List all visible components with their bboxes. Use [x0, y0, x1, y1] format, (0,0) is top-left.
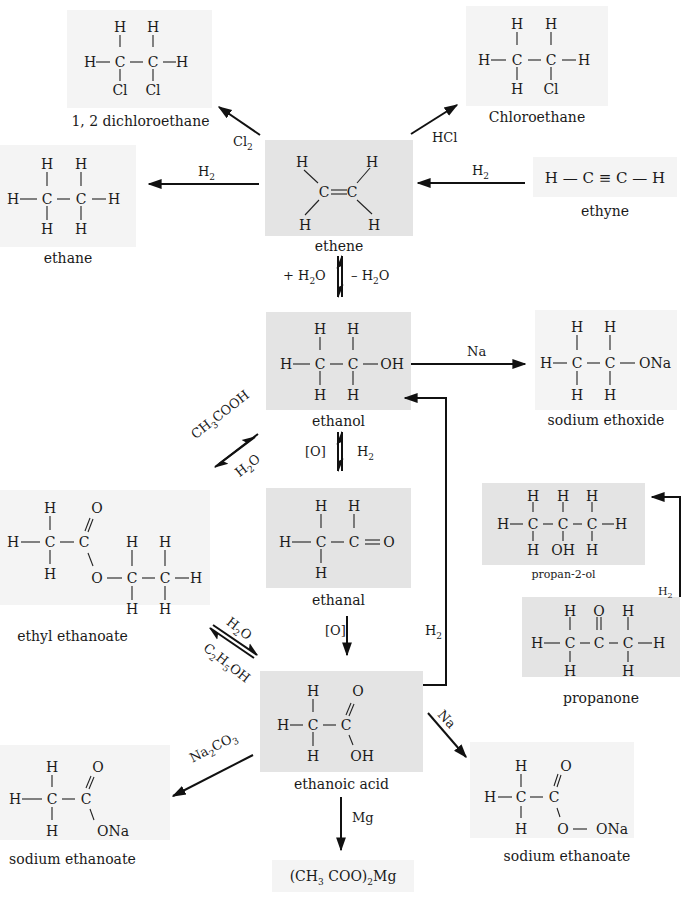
- reagent-ox-ethanal: [O]: [325, 623, 346, 638]
- atom-c: C: [160, 570, 171, 586]
- ethene-label: ethene: [265, 238, 413, 254]
- atom-h: H: [347, 387, 359, 403]
- ethanol-label: ethanol: [266, 413, 411, 429]
- atom-c: C: [47, 791, 58, 807]
- atom-h: H: [586, 488, 598, 504]
- reagent-hcl: HCl: [432, 130, 457, 145]
- atom-h: H: [571, 387, 583, 403]
- atom-h: H: [126, 601, 138, 617]
- reaction-diagram: HHHCCHClClHHHCCHHClHHHCCHHHHHCCHHHHHCCOH…: [0, 0, 684, 898]
- propan-2-ol-label: propan-2-ol: [482, 568, 645, 581]
- atom-h: H: [84, 54, 96, 70]
- atom-c: C: [623, 635, 634, 651]
- atom-h: H: [511, 81, 523, 97]
- reagent-h2-ethane: H2: [198, 164, 215, 182]
- ethane-label: ethane: [0, 250, 136, 266]
- atom-c: C: [308, 717, 319, 733]
- atom-h: H: [315, 565, 327, 581]
- ethanoic-acid-label: ethanoic acid: [260, 776, 423, 792]
- atom-h: H: [41, 156, 53, 172]
- atom-h: H: [114, 19, 126, 35]
- atom-h: H: [564, 663, 576, 679]
- atom-ona: ONa: [97, 823, 129, 839]
- atom-c: C: [549, 789, 560, 805]
- atom-h: H: [108, 191, 120, 207]
- ethyne-formula: H — C ≡ C — H: [533, 169, 677, 187]
- atom-o: O: [557, 821, 568, 837]
- sodium-ethoxide-label: sodium ethoxide: [525, 412, 684, 428]
- atom-cl: Cl: [145, 82, 161, 98]
- atom-c: C: [316, 534, 327, 550]
- atom-h: H: [277, 717, 289, 733]
- atom-h: H: [190, 570, 202, 586]
- reagent-ox-ethanol: [O]: [305, 444, 326, 459]
- atom-c: C: [512, 52, 523, 68]
- atom-cl: Cl: [543, 81, 559, 97]
- atom-h: H: [348, 498, 360, 514]
- atom-c: C: [347, 184, 358, 200]
- reagent-cl2: Cl2: [233, 134, 253, 152]
- atom-h: H: [515, 758, 527, 774]
- atom-h: H: [9, 791, 21, 807]
- arrow-cl2: [219, 107, 260, 135]
- arrow-h2-acid-to-ethanol: [405, 398, 446, 685]
- atom-h: H: [564, 603, 576, 619]
- atom-o: O: [593, 603, 604, 619]
- atom-cl: Cl: [112, 82, 128, 98]
- atom-h: H: [296, 154, 308, 170]
- atom-h: H: [299, 217, 311, 233]
- atom-ona: ONa: [596, 821, 628, 837]
- atom-h: H: [347, 321, 359, 337]
- atom-h: H: [497, 516, 509, 532]
- atom-h: H: [511, 16, 523, 32]
- reagent-h2-acid: H2: [425, 623, 442, 641]
- atom-c: C: [45, 534, 56, 550]
- reagent-minus-h2o: – H2O: [351, 268, 389, 286]
- atom-o: O: [560, 758, 571, 774]
- atom-oh: OH: [551, 542, 575, 558]
- atom-c: C: [115, 54, 126, 70]
- atom-c: C: [148, 54, 159, 70]
- atom-c: C: [42, 191, 53, 207]
- atom-c: C: [76, 191, 87, 207]
- atom-oh: OH: [350, 748, 374, 764]
- atom-h: H: [147, 19, 159, 35]
- atom-c: C: [315, 356, 326, 372]
- atom-h: H: [531, 635, 543, 651]
- atom-h: H: [527, 542, 539, 558]
- atom-c: C: [605, 355, 616, 371]
- atom-h: H: [7, 191, 19, 207]
- atom-c: C: [516, 789, 527, 805]
- atom-h: H: [280, 356, 292, 372]
- atom-h: H: [545, 16, 557, 32]
- arrow-h2-propanone: [652, 497, 680, 597]
- atom-c: C: [127, 570, 138, 586]
- reagent-plus-h2o: + H2O: [283, 268, 326, 286]
- ethanal-label: ethanal: [266, 592, 411, 608]
- sodium-ethanoate-right-label: sodium ethanoate: [485, 848, 649, 864]
- atom-oh: OH: [380, 356, 404, 372]
- atom-h: H: [527, 488, 539, 504]
- atom-h: H: [41, 221, 53, 237]
- atom-c: C: [546, 52, 557, 68]
- atom-h: H: [622, 603, 634, 619]
- atom-h: H: [126, 534, 138, 550]
- atom-o: O: [91, 570, 102, 586]
- atom-h: H: [557, 488, 569, 504]
- atom-h: H: [540, 355, 552, 371]
- atom-h: H: [44, 500, 56, 516]
- reagent-na-ethoxide: Na: [467, 344, 486, 359]
- atom-h: H: [7, 534, 19, 550]
- reagent-h2-ethyne: H2: [472, 163, 489, 181]
- propanone-label: propanone: [522, 690, 680, 706]
- atom-c: C: [319, 184, 330, 200]
- atom-o: O: [352, 683, 363, 699]
- atom-h: H: [604, 319, 616, 335]
- atom-h: H: [159, 601, 171, 617]
- atom-h: H: [653, 635, 665, 651]
- atom-h: H: [366, 154, 378, 170]
- atom-c: C: [572, 355, 583, 371]
- atom-h: H: [75, 221, 87, 237]
- magnesium-ethanoate-label: (CH3 COO)2Mg: [272, 868, 414, 887]
- atom-h: H: [622, 663, 634, 679]
